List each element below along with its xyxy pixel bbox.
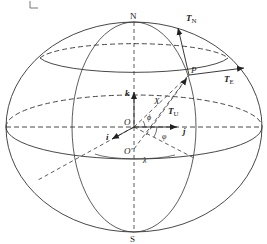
- label-k: k: [125, 88, 130, 98]
- T-N-vector: [178, 28, 189, 75]
- T-E-vector: [189, 68, 244, 75]
- label-T-E: TE: [224, 74, 234, 86]
- ellipsoid-coordinate-diagram: N S P O O' X k i j TN TE TU ϕ φ λ: [0, 0, 267, 244]
- phi-arc-geodetic: [154, 127, 157, 137]
- corner-mark: [30, 1, 38, 8]
- phi-arc-geocentric: [143, 121, 145, 127]
- T-U-vector: [146, 78, 187, 135]
- label-north: N: [130, 11, 137, 21]
- label-south: S: [130, 234, 135, 244]
- i-vector: [112, 127, 134, 139]
- label-O: O: [124, 117, 131, 127]
- label-lambda: λ: [142, 156, 147, 165]
- label-i: i: [106, 132, 109, 142]
- label-P: P: [190, 65, 197, 75]
- label-phi-geodetic: φ: [162, 132, 167, 141]
- label-T-N: TN: [186, 13, 197, 25]
- label-j: j: [181, 126, 186, 136]
- label-phi-geocentric: ϕ: [147, 113, 151, 122]
- label-O-prime: O': [124, 146, 133, 156]
- diagram-canvas: N S P O O' X k i j TN TE TU ϕ φ λ: [0, 0, 267, 244]
- label-X: X: [153, 96, 160, 106]
- geocentric-vector-X: [134, 75, 189, 127]
- label-T-U: TU: [168, 106, 179, 118]
